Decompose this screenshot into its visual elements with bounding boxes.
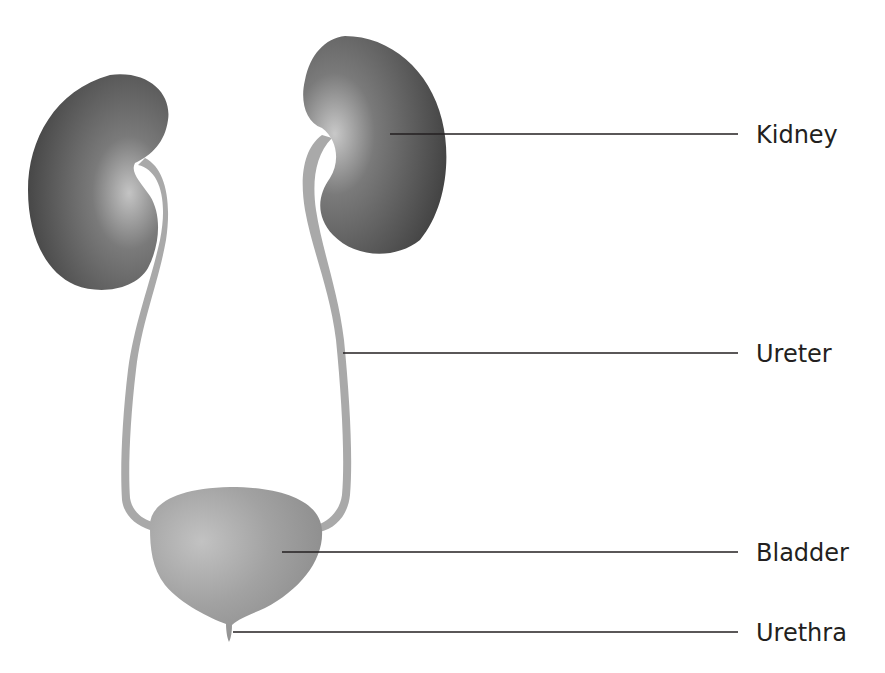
anatomy-illustration xyxy=(0,0,885,673)
label-kidney: Kidney xyxy=(756,123,838,147)
left-kidney xyxy=(28,74,168,290)
label-urethra: Urethra xyxy=(756,621,847,645)
bladder-shape xyxy=(150,487,322,642)
label-bladder: Bladder xyxy=(756,541,849,565)
label-ureter: Ureter xyxy=(756,342,832,366)
urinary-system-diagram: Kidney Ureter Bladder Urethra xyxy=(0,0,885,673)
